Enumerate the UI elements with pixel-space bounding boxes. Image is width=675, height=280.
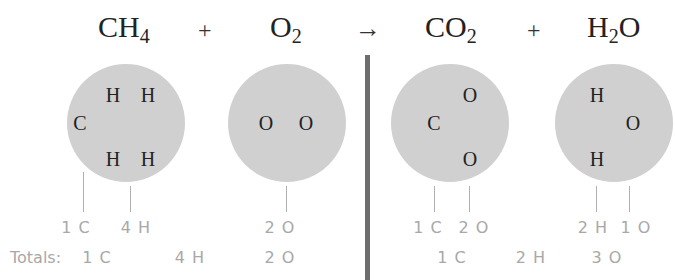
tick-line — [286, 186, 287, 212]
count-co2-o: 2 O — [459, 220, 490, 236]
atom-o: O — [626, 113, 640, 133]
total-reactant-o: 2 O — [265, 250, 296, 266]
formula-base: H — [587, 10, 609, 43]
atom-h: H — [141, 85, 155, 105]
tick-line — [130, 186, 131, 212]
count-h2o-h: 2 H — [578, 220, 608, 236]
total-product-c: 1 C — [437, 250, 466, 266]
formula-base: CO — [425, 10, 467, 43]
formula-base: O — [270, 10, 292, 43]
count-ch4-h: 4 H — [121, 220, 151, 236]
formula-h2o: H2O — [587, 12, 640, 42]
molecule-h2o: H O H — [555, 64, 673, 182]
formula-subscript: 2 — [292, 25, 302, 47]
formula-tail: O — [619, 10, 641, 43]
molecule-co2: O C O — [391, 64, 509, 182]
atom-o: O — [299, 113, 313, 133]
reaction-divider — [365, 55, 370, 280]
atom-h: H — [141, 149, 155, 169]
formula-o2: O2 — [270, 12, 302, 42]
molecule-ch4: H H C H H — [67, 64, 185, 182]
count-h2o-o: 1 O — [621, 220, 652, 236]
formula-subscript: 4 — [140, 25, 150, 47]
plus-sign: + — [527, 18, 541, 42]
atom-h: H — [106, 149, 120, 169]
atom-c: C — [427, 113, 440, 133]
tick-line — [469, 186, 470, 212]
atom-o: O — [463, 85, 477, 105]
total-product-h: 2 H — [516, 250, 546, 266]
atom-o: O — [259, 113, 273, 133]
atom-h: H — [590, 85, 604, 105]
tick-line — [629, 186, 630, 212]
total-reactant-c: 1 C — [82, 250, 111, 266]
formula-base: CH — [98, 10, 140, 43]
formula-subscript: 2 — [609, 25, 619, 47]
formula-subscript: 2 — [467, 25, 477, 47]
atom-h: H — [106, 85, 120, 105]
tick-line — [83, 172, 84, 212]
count-ch4-c: 1 C — [61, 220, 90, 236]
tick-line — [434, 186, 435, 212]
atom-c: C — [73, 113, 86, 133]
plus-sign: + — [198, 18, 212, 42]
formula-ch4: CH4 — [98, 12, 150, 42]
count-o2-o: 2 O — [265, 220, 296, 236]
total-product-o: 3 O — [592, 250, 623, 266]
molecule-o2: O O — [228, 64, 346, 182]
tick-line — [596, 186, 597, 212]
totals-label: Totals: — [10, 250, 61, 266]
atom-h: H — [590, 149, 604, 169]
formula-co2: CO2 — [425, 12, 477, 42]
arrow-icon: → — [355, 16, 381, 42]
atom-o: O — [463, 149, 477, 169]
count-co2-c: 1 C — [413, 220, 442, 236]
total-reactant-h: 4 H — [175, 250, 205, 266]
